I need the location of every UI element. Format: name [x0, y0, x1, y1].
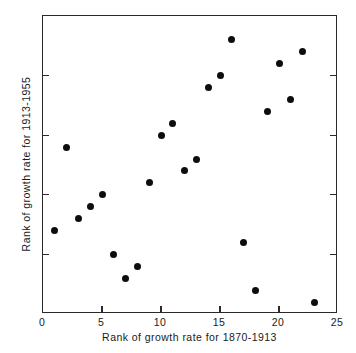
scatter-plot-figure: 0510152025 0510152025 Rank of growth rat…: [0, 0, 356, 353]
x-axis-title: Rank of growth rate for 1870-1913: [42, 331, 337, 343]
y-axis-tick-labels: 0510152025: [0, 0, 356, 353]
y-axis-title: Rank of growth rate for 1913-1955: [18, 15, 34, 313]
